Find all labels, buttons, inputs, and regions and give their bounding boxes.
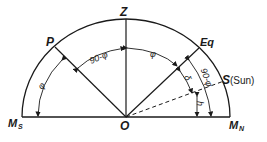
angle-delta: δ — [182, 74, 193, 83]
label-south-meridian: M — [8, 117, 18, 129]
angle-h: h — [195, 101, 205, 106]
angle-phi-right: φ — [150, 49, 156, 59]
equator-line — [126, 48, 199, 117]
label-north-meridian: M — [229, 119, 239, 131]
label-equator: Eq — [200, 36, 214, 48]
label-south-sub: S — [18, 123, 23, 130]
angle-ninety-minus-phi-top: 90-φ — [88, 49, 109, 65]
label-north-sub: N — [239, 125, 245, 132]
celestial-diagram: Z P Eq S (Sun) O M S M N φ 90-φ φ 90-φ δ… — [0, 0, 267, 142]
angle-ninety-minus-phi-right: 90-φ — [199, 67, 215, 88]
label-sun: S — [222, 73, 230, 87]
label-zenith: Z — [119, 5, 128, 19]
label-origin: O — [120, 119, 130, 133]
label-pole: P — [46, 35, 55, 49]
label-sun-note: (Sun) — [230, 75, 254, 86]
